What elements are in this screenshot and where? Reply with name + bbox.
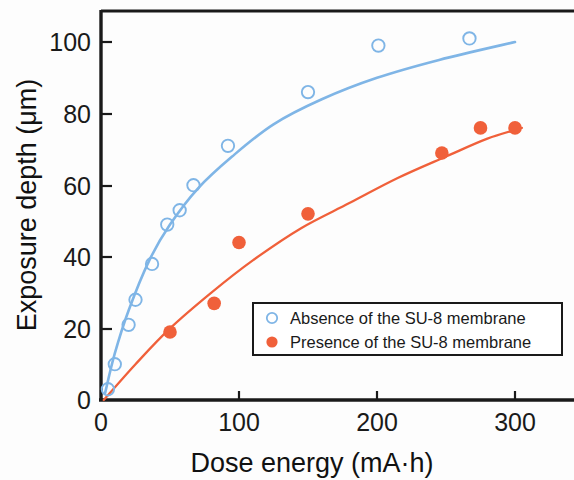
x-tick-label-0: 0 bbox=[94, 408, 108, 436]
chart-figure: 100 80 60 40 20 0 0 100 200 300 Dose ene… bbox=[0, 0, 574, 480]
y-axis-tick-labels: 100 80 60 40 20 0 bbox=[49, 28, 91, 414]
legend-marker-filled-circle-icon bbox=[266, 336, 277, 347]
y-tick-label-20: 20 bbox=[63, 315, 91, 343]
legend: Absence of the SU-8 membrane Presence of… bbox=[253, 303, 562, 355]
y-tick-label-100: 100 bbox=[49, 28, 91, 56]
data-point bbox=[302, 86, 314, 98]
data-point bbox=[435, 146, 449, 160]
y-tick-label-80: 80 bbox=[63, 100, 91, 128]
data-point bbox=[109, 358, 121, 370]
x-axis-title: Dose energy (mA·h) bbox=[190, 448, 433, 478]
y-tick-label-40: 40 bbox=[63, 243, 91, 271]
y-tick-label-0: 0 bbox=[77, 386, 91, 414]
y-tick-label-60: 60 bbox=[63, 172, 91, 200]
data-point bbox=[301, 207, 315, 221]
data-point bbox=[222, 140, 234, 152]
y-axis-title: Exposure depth (μm) bbox=[12, 79, 42, 332]
data-point bbox=[207, 297, 221, 311]
fit-curve-presence bbox=[104, 128, 522, 400]
data-point bbox=[463, 32, 475, 44]
data-point bbox=[474, 121, 488, 135]
x-axis-tick-labels: 0 100 200 300 bbox=[94, 408, 536, 436]
legend-label-absence: Absence of the SU-8 membrane bbox=[290, 309, 526, 327]
data-point bbox=[372, 39, 384, 51]
data-point bbox=[508, 121, 522, 135]
exposure-depth-scatter-chart: 100 80 60 40 20 0 0 100 200 300 Dose ene… bbox=[0, 0, 574, 480]
legend-label-presence: Presence of the SU-8 membrane bbox=[290, 333, 531, 351]
data-point bbox=[187, 179, 199, 191]
data-point bbox=[232, 236, 246, 250]
data-point bbox=[163, 325, 177, 339]
x-tick-label-100: 100 bbox=[218, 408, 260, 436]
x-tick-label-200: 200 bbox=[356, 408, 398, 436]
x-tick-label-300: 300 bbox=[494, 408, 536, 436]
